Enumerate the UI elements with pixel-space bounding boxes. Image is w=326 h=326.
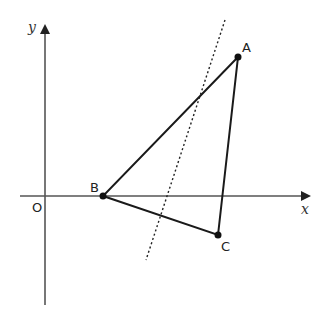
point-a-label: A [242,40,251,55]
point-c-label: C [221,239,230,254]
point-b-label: B [90,180,99,195]
axes: x y O [20,19,309,305]
origin-label: O [32,200,42,215]
x-axis-label: x [301,201,309,217]
y-axis-label: y [27,19,37,35]
point-c [215,232,222,239]
coordinate-diagram: x y O A B C [0,0,326,326]
triangle-abc [103,57,238,235]
point-a [235,54,242,61]
point-b [100,193,107,200]
